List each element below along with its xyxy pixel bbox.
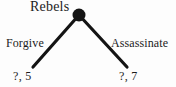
payoff-assassinate: ?, 7 [119,70,138,82]
branch-label-forgive: Forgive [6,37,44,49]
decision-node [73,9,86,22]
payoff-forgive: ?, 5 [13,70,32,82]
branch-label-assassinate: Assassinate [111,37,168,49]
decision-node-player-label: Rebels [30,0,69,14]
game-tree-figure: Rebels Forgive Assassinate ?, 5 ?, 7 [0,0,176,87]
